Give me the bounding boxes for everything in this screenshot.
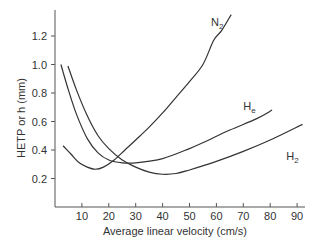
x-tick-label: 80 (264, 210, 276, 222)
series-label-n2: N2 (211, 16, 224, 31)
x-tick-label: 40 (156, 210, 168, 222)
x-axis-title: Average linear velocity (cm/s) (103, 225, 247, 237)
y-tick-label: 0.2 (32, 173, 47, 185)
curves (61, 15, 303, 175)
series-label-he: He (243, 100, 256, 115)
x-tick-label: 90 (291, 210, 303, 222)
y-tick-label: 0.4 (32, 144, 47, 156)
y-ticks: 0.20.40.60.81.01.2 (32, 30, 55, 185)
y-tick-label: 1.2 (32, 30, 47, 42)
series-label-h2: H2 (286, 150, 299, 165)
x-tick-label: 30 (130, 210, 142, 222)
x-tick-label: 20 (103, 210, 115, 222)
y-tick-label: 0.8 (32, 87, 47, 99)
y-axis-title: HETP or h (mm) (15, 78, 27, 158)
y-tick-label: 0.6 (32, 116, 47, 128)
curve-n2 (63, 15, 231, 170)
x-tick-label: 60 (210, 210, 222, 222)
axes: 102030405060708090 0.20.40.60.81.01.2 (32, 10, 305, 222)
curve-h2 (68, 66, 303, 174)
y-tick-label: 1.0 (32, 59, 47, 71)
x-tick-label: 70 (237, 210, 249, 222)
series-labels: N2HeH2 (211, 16, 299, 165)
hetp-chart: 102030405060708090 0.20.40.60.81.01.2 N2… (0, 0, 317, 247)
x-ticks: 102030405060708090 (76, 203, 303, 222)
x-tick-label: 10 (76, 210, 88, 222)
x-tick-label: 50 (183, 210, 195, 222)
curve-he (61, 65, 272, 164)
